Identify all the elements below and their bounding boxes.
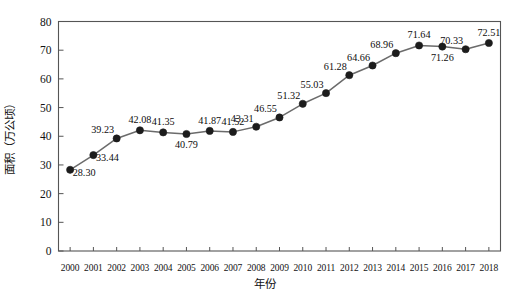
data-point-label: 41.87 bbox=[198, 115, 221, 126]
data-point-label: 41.35 bbox=[152, 116, 175, 127]
data-point-marker bbox=[113, 135, 120, 142]
data-point-marker bbox=[299, 100, 306, 107]
data-point-marker bbox=[485, 39, 492, 46]
x-tick-label: 2017 bbox=[456, 263, 475, 273]
data-point-label: 46.55 bbox=[254, 103, 277, 114]
data-point-marker bbox=[415, 42, 422, 49]
y-tick-label: 80 bbox=[40, 16, 52, 28]
data-point-label: 64.66 bbox=[347, 52, 370, 63]
data-point-marker bbox=[322, 90, 329, 97]
x-tick-label: 2009 bbox=[270, 263, 289, 273]
data-point-marker bbox=[276, 114, 283, 121]
data-point-label: 43.31 bbox=[231, 113, 254, 124]
x-tick-label: 2014 bbox=[387, 263, 406, 273]
x-tick-label: 2005 bbox=[177, 263, 196, 273]
x-tick-label: 2013 bbox=[363, 263, 382, 273]
x-tick-label: 2003 bbox=[131, 263, 150, 273]
data-point-marker bbox=[346, 72, 353, 79]
data-point-marker bbox=[392, 50, 399, 57]
x-tick-label: 2015 bbox=[410, 263, 429, 273]
data-point-label: 72.51 bbox=[477, 27, 500, 38]
x-tick-label: 2004 bbox=[154, 263, 173, 273]
y-tick-label: 40 bbox=[40, 130, 52, 142]
data-point-label: 33.44 bbox=[96, 152, 119, 163]
data-point-marker bbox=[229, 128, 236, 135]
x-tick-label: 2012 bbox=[340, 263, 359, 273]
data-point-label: 68.96 bbox=[370, 39, 393, 50]
x-tick-label: 2011 bbox=[317, 263, 336, 273]
y-tick-label: 20 bbox=[40, 188, 52, 200]
data-point-label: 70.33 bbox=[440, 35, 463, 46]
data-point-label: 28.30 bbox=[73, 167, 96, 178]
x-tick-label: 2007 bbox=[224, 263, 243, 273]
y-tick-label: 30 bbox=[40, 159, 52, 171]
x-tick-label: 2010 bbox=[293, 263, 312, 273]
data-point-label: 71.26 bbox=[431, 52, 454, 63]
data-point-marker bbox=[136, 127, 143, 134]
y-tick-label: 60 bbox=[40, 73, 52, 85]
x-tick-label: 2018 bbox=[480, 263, 499, 273]
x-tick-label: 2016 bbox=[433, 263, 452, 273]
x-tick-label: 2001 bbox=[84, 263, 103, 273]
y-tick-label: 50 bbox=[40, 102, 52, 114]
data-point-marker bbox=[369, 62, 376, 69]
data-point-label: 51.32 bbox=[277, 90, 300, 101]
x-tick-label: 2002 bbox=[107, 263, 126, 273]
data-point-marker bbox=[183, 130, 190, 137]
data-point-marker bbox=[206, 127, 213, 134]
data-point-label: 71.64 bbox=[408, 29, 431, 40]
x-tick-label: 2006 bbox=[200, 263, 219, 273]
y-tick-label: 70 bbox=[40, 44, 52, 56]
x-axis-title: 年份 bbox=[254, 277, 277, 290]
data-point-marker bbox=[160, 129, 167, 136]
x-tick-label: 2008 bbox=[247, 263, 266, 273]
line-chart: 01020304050607080 2000200120022003200420… bbox=[0, 0, 524, 299]
data-point-label: 40.79 bbox=[175, 139, 198, 150]
y-tick-label: 10 bbox=[40, 216, 52, 228]
y-tick-label: 0 bbox=[46, 245, 52, 257]
x-tick-label: 2000 bbox=[61, 263, 80, 273]
data-point-label: 39.23 bbox=[91, 124, 114, 135]
data-point-marker bbox=[253, 123, 260, 130]
data-point-label: 61.28 bbox=[324, 61, 347, 72]
y-axis-title: 面积（万公顷） bbox=[4, 98, 16, 175]
chart-canvas: 01020304050607080 2000200120022003200420… bbox=[0, 0, 524, 299]
data-point-label: 55.03 bbox=[301, 79, 324, 90]
data-point-marker bbox=[462, 46, 469, 53]
data-point-label: 42.08 bbox=[128, 114, 151, 125]
